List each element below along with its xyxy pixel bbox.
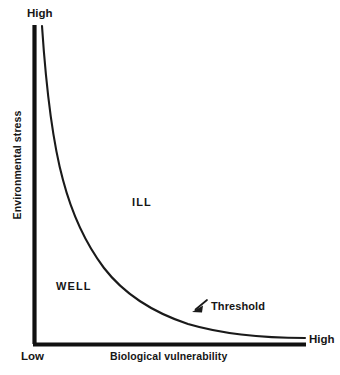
x-axis-title: Biological vulnerability [110,351,227,362]
region-label-ill: ILL [132,197,152,208]
threshold-model-chart: High Environmental stress Low High Biolo… [0,0,340,375]
chart-plot-area [0,0,340,375]
threshold-arrow-icon [192,300,207,313]
x-axis-max-label: High [309,334,335,346]
x-axis-min-label: Low [21,351,44,363]
region-label-well: WELL [56,281,92,292]
y-axis-title: Environmental stress [12,111,23,220]
threshold-annotation-label: Threshold [211,301,265,312]
y-axis-max-label: High [27,8,53,20]
